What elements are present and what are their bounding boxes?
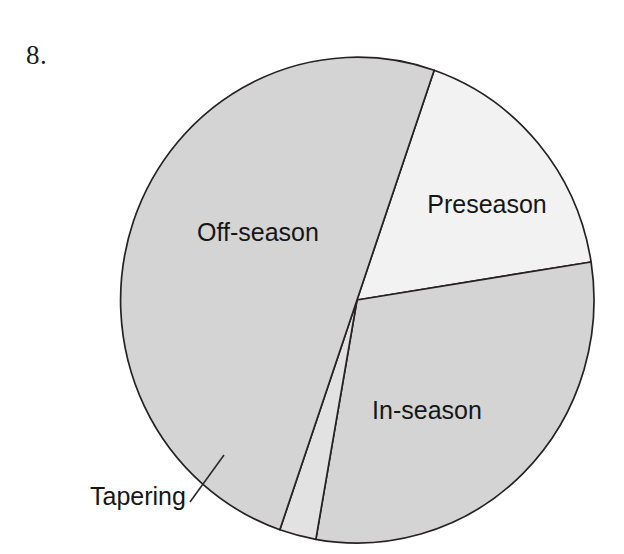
pie-chart: PreseasonIn-seasonTaperingOff-season [0,0,624,554]
pie-label-preseason: Preseason [427,190,547,218]
pie-label-off-season: Off-season [197,218,319,246]
pie-label-in-season: In-season [372,396,482,424]
pie-label-tapering: Tapering [90,482,186,510]
pie-slices-group [121,57,594,543]
figure-page: 8. PreseasonIn-seasonTaperingOff-season [0,0,624,554]
